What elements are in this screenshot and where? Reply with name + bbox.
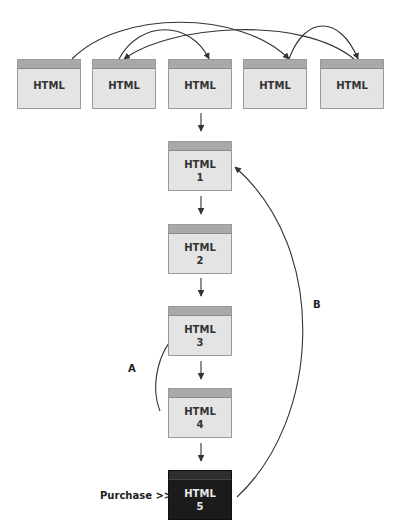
top-page-1: HTML: [17, 59, 81, 109]
top-page-4: HTML: [243, 59, 307, 109]
page-label: HTML: [18, 79, 80, 92]
page-label: HTML: [169, 487, 231, 500]
page-label: HTML: [169, 158, 231, 171]
page-number: 1: [169, 171, 231, 184]
page-label: HTML: [169, 79, 231, 92]
page-label: HTML: [244, 79, 306, 92]
purchase-label: Purchase >>: [100, 490, 172, 501]
top-page-2: HTML: [92, 59, 156, 109]
page-label: HTML: [321, 79, 383, 92]
arc-box1-to-box4: [72, 22, 289, 59]
funnel-page-4: HTML 4: [168, 388, 232, 438]
page-number: 5: [169, 500, 231, 513]
page-number: 2: [169, 254, 231, 267]
funnel-page-5-purchase: HTML 5: [168, 470, 232, 520]
label-a: A: [128, 363, 136, 374]
arc-box5-to-box2: [124, 30, 354, 59]
page-number: 4: [169, 418, 231, 431]
page-label: HTML: [169, 405, 231, 418]
funnel-page-1: HTML 1: [168, 141, 232, 191]
page-label: HTML: [93, 79, 155, 92]
label-b: B: [313, 299, 321, 310]
page-label: HTML: [169, 323, 231, 336]
funnel-page-2: HTML 2: [168, 224, 232, 274]
top-page-5: HTML: [320, 59, 384, 109]
arc-box2-to-box3: [119, 30, 209, 59]
top-page-3: HTML: [168, 59, 232, 109]
arc-b: [235, 167, 303, 497]
page-label: HTML: [169, 241, 231, 254]
page-number: 3: [169, 336, 231, 349]
funnel-page-3: HTML 3: [168, 306, 232, 356]
